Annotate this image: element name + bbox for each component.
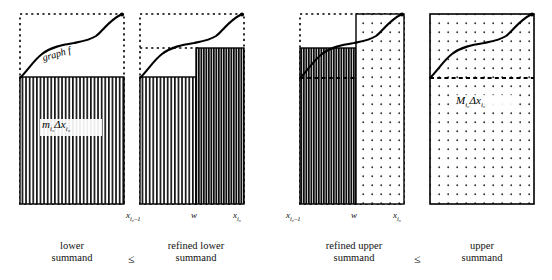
panel-lower-summand-graphic [18,12,126,208]
axis-label-right: xi₀ [233,210,241,222]
curve-endpoint-dot [120,12,124,16]
relation-symbol-3: ≤ [414,252,421,267]
caption-line-2: summand [22,252,122,264]
panel-refined-upper-summand-graphic [298,12,406,208]
refined-upper-left-rectangle [300,48,356,204]
caption-upper-summand: upper summand [432,240,532,264]
caption-refined-lower-summand: refined lower summand [142,240,250,264]
panel-refined-lower-summand-graphic [138,12,246,208]
curve-endpoint-dot [400,12,404,16]
panel-upper-summand-graphic [428,12,536,208]
graph-f-curve [20,14,122,78]
axis-label-left: xi₀–1 [286,210,301,222]
upper-summand-area-label: Mi₀Δxi₀ [456,94,485,109]
caption-refined-upper-summand: refined upper summand [300,240,408,264]
lower-sum-rectangle [20,77,124,204]
figure-canvas: mi₀Δxi₀ graph f [0,0,552,280]
panel-refined-upper-summand: xi₀–1 w xi₀ [298,12,406,208]
refined-lower-left-rectangle [140,77,196,204]
caption-line-2: summand [142,252,250,264]
refined-lower-right-rectangle [196,48,244,204]
curve-endpoint-dot [240,12,244,16]
lower-summand-area-label: mi₀Δxi₀ [42,118,70,133]
axis-label-right: xi₀ [393,210,401,222]
axis-label-middle: w [191,210,197,220]
panel-refined-lower-summand: xi₀–1 w xi₀ [138,12,246,208]
axis-label-left: xi₀–1 [126,210,141,222]
refined-upper-right-rectangle [356,14,404,204]
axis-label-middle: w [351,210,357,220]
caption-line-1: lower [22,240,122,252]
caption-line-1: refined upper [300,240,408,252]
curve-endpoint-dot [530,12,534,16]
caption-line-2: summand [432,252,532,264]
caption-line-1: upper [432,240,532,252]
caption-line-2: summand [300,252,408,264]
relation-symbol-1: ≤ [128,252,135,267]
caption-line-1: refined lower [142,240,250,252]
panel-lower-summand: mi₀Δxi₀ graph f [18,12,126,208]
caption-lower-summand: lower summand [22,240,122,264]
panel-upper-summand: Mi₀Δxi₀ [428,12,536,208]
